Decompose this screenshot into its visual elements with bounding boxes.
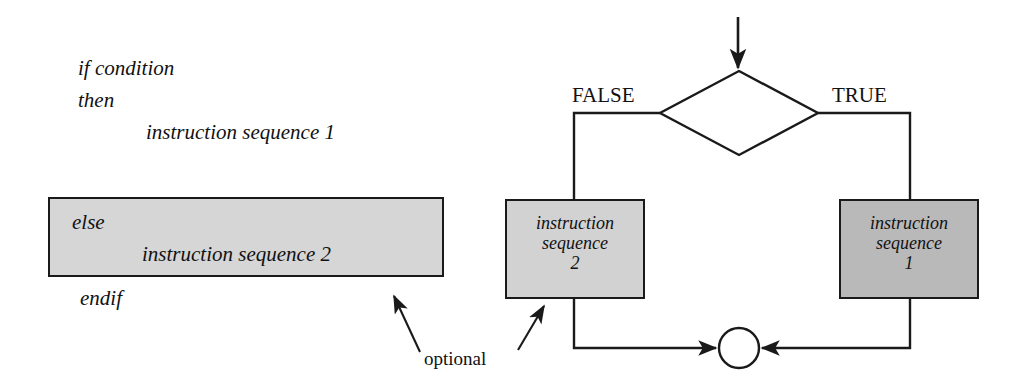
- connector-true-to-merge: [762, 299, 910, 348]
- flowchart-connectors: [0, 0, 1021, 389]
- connector-true-branch: [818, 113, 910, 199]
- decision-diamond-shape: [660, 71, 818, 155]
- connector-false-to-merge: [574, 299, 716, 348]
- optional-arrow-to-pseudocode: [394, 296, 420, 352]
- merge-circle-node: [719, 328, 759, 368]
- figure-canvas: if condition then instruction sequence 1…: [0, 0, 1021, 389]
- optional-arrow-to-flowchart-box: [518, 306, 544, 350]
- connector-false-branch: [574, 113, 660, 199]
